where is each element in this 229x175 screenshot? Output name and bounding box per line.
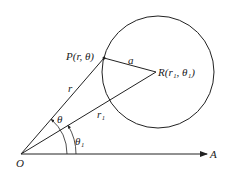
label-segment-or: r₁	[97, 108, 105, 120]
label-point-r: R(r₁, θ₁)	[157, 66, 195, 79]
segment-or	[21, 72, 156, 154]
label-angle-theta1: θ₁	[75, 135, 84, 147]
label-point-p: P(r, θ)	[65, 50, 94, 63]
label-axis-end: A	[209, 148, 217, 160]
diagram-canvas: O A P(r, θ) R(r₁, θ₁) r r₁ a θ θ₁	[0, 0, 229, 175]
label-segment-pr: a	[128, 54, 134, 66]
label-angle-theta: θ	[57, 113, 63, 125]
point-p-dot	[103, 57, 106, 60]
label-origin: O	[16, 157, 24, 169]
segment-op	[21, 58, 104, 154]
diagram: O A P(r, θ) R(r₁, θ₁) r r₁ a θ θ₁	[0, 0, 229, 175]
label-segment-op: r	[68, 82, 73, 94]
